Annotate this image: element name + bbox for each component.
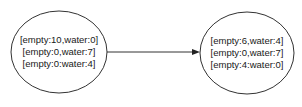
state-node-1-label: [empty:10,water:0] [empty:0,water:7] [em…	[11, 34, 107, 70]
state-node-2-label: [empty:6,water:4] [empty:0,water:7] [emp…	[200, 35, 294, 71]
state-node-1-line-1: [empty:10,water:0]	[11, 34, 107, 46]
state-node-1-line-3: [empty:0:water:4]	[11, 58, 107, 70]
state-node-2-line-3: [empty:4:water:0]	[200, 59, 294, 71]
state-node-1-line-2: [empty:0,water:7]	[11, 46, 107, 58]
state-node-2-line-1: [empty:6,water:4]	[200, 35, 294, 47]
state-node-2-line-2: [empty:0,water:7]	[200, 47, 294, 59]
arrowhead-icon	[192, 49, 200, 55]
